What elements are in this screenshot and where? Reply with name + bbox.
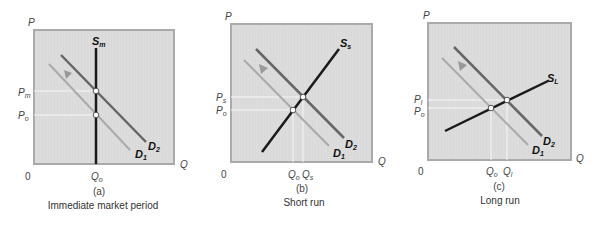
- equilibrium-new: [93, 88, 99, 94]
- panel-immediate-market-period: P Q 0 Sm D2 D1 Pm Po Qo (a) Immediate ma…: [18, 17, 188, 211]
- origin-label: 0: [418, 166, 424, 177]
- price-label-po: Po: [414, 106, 425, 118]
- y-axis-label: P: [28, 17, 35, 28]
- origin-label: 0: [221, 169, 227, 180]
- price-label-pm: Pm: [18, 87, 31, 99]
- quantity-label-qo: Qo: [91, 171, 103, 183]
- equilibrium-new: [300, 94, 306, 100]
- x-axis-label: Q: [378, 156, 386, 167]
- panel-label: (a): [93, 186, 105, 197]
- quantity-label-ql: Ql: [503, 166, 513, 178]
- equilibrium-new: [504, 97, 510, 103]
- equilibrium-original: [93, 112, 99, 118]
- quantity-label-qo: Qo: [486, 166, 498, 178]
- panel-long-run: P Q 0 SL D2 D1 Pl Po Qo Ql (c) Long run: [414, 10, 584, 206]
- quantity-label-qo: Qo: [288, 169, 300, 181]
- panel-caption: Short run: [283, 197, 324, 208]
- price-label-pl: Pl: [414, 94, 423, 106]
- x-axis-label: Q: [576, 153, 584, 164]
- quantity-label-qs: Qs: [302, 169, 314, 181]
- price-label-ps: Ps: [216, 92, 227, 104]
- panel-label: (b): [296, 183, 308, 194]
- x-axis-label: Q: [180, 159, 188, 170]
- origin-label: 0: [25, 171, 31, 182]
- panel-short-run: P Q 0 Ss D2 D1 Ps Po Qo Qs (b) Short run: [216, 11, 386, 208]
- equilibrium-original: [290, 107, 296, 113]
- price-label-po: Po: [216, 105, 227, 117]
- price-label-po: Po: [18, 110, 29, 122]
- panel-caption: Long run: [480, 195, 519, 206]
- supply-demand-diagram: P Q 0 Sm D2 D1 Pm Po Qo (a) Immediate ma…: [0, 0, 598, 226]
- equilibrium-original: [488, 105, 494, 111]
- y-axis-label: P: [225, 11, 232, 22]
- panel-caption: Immediate market period: [48, 200, 159, 211]
- panel-label: (c): [493, 181, 505, 192]
- y-axis-label: P: [423, 10, 430, 21]
